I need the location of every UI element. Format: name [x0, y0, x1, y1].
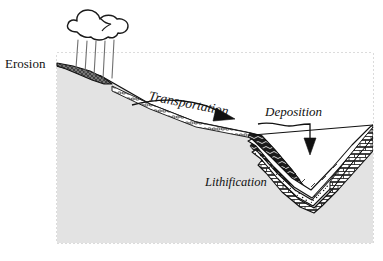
cloud-shape: [67, 10, 128, 40]
diagram-figure: Erosion Transportation Deposition Lithif…: [0, 0, 383, 261]
rock-cycle-diagram-svg: Erosion Transportation Deposition Lithif…: [0, 0, 383, 261]
deposition-label: Deposition: [264, 104, 322, 119]
erosion-label: Erosion: [5, 56, 46, 71]
lithification-label: Lithification: [204, 175, 267, 189]
